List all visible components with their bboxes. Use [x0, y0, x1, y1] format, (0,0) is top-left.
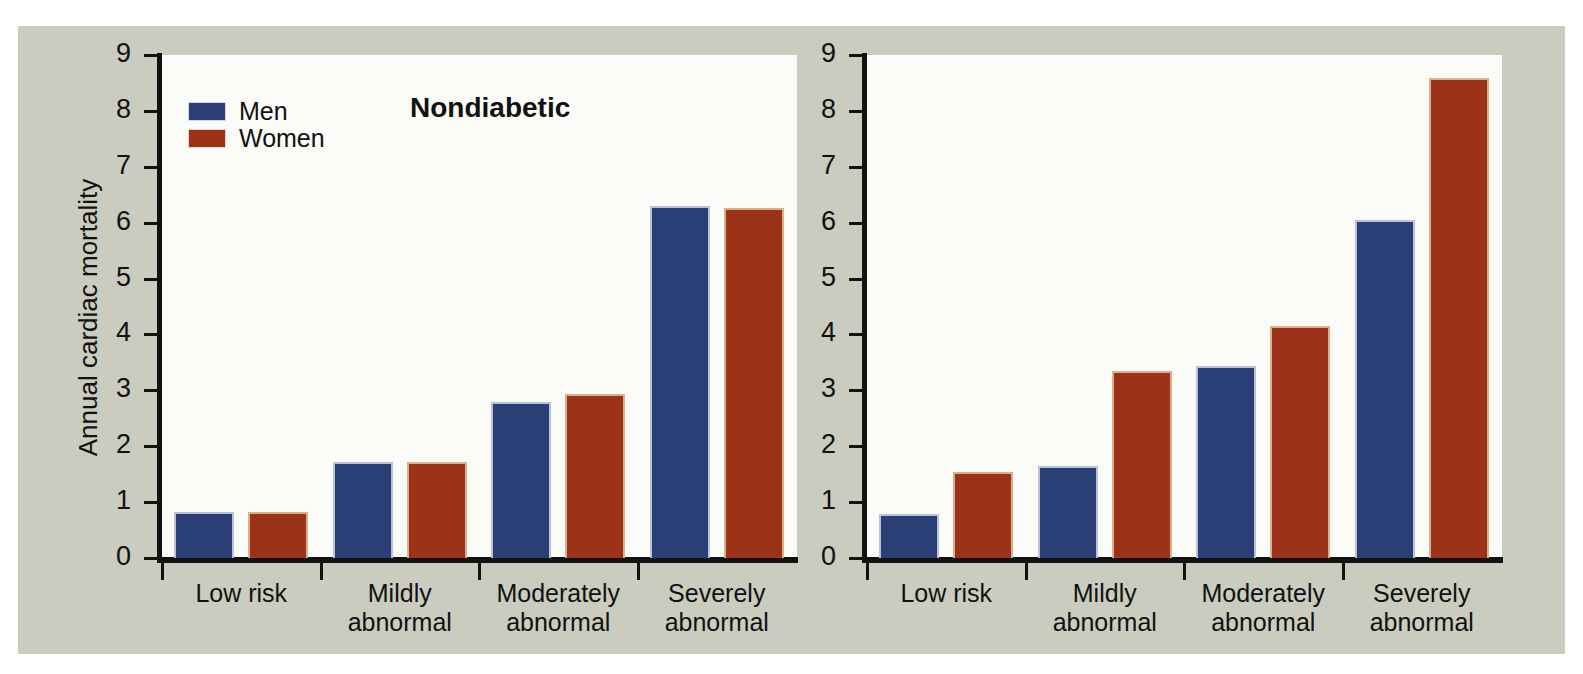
- y-tick-mark: [144, 166, 157, 169]
- y-tick-label: 7: [97, 152, 131, 179]
- y-tick-mark: [849, 54, 862, 57]
- figure-background: Annual cardiac mortality 0123456789 Low …: [18, 26, 1565, 654]
- category-label: Low risk: [162, 579, 321, 608]
- y-tick-label: 9: [802, 40, 836, 67]
- y-tick-mark: [849, 278, 862, 281]
- y-tick-label: 5: [802, 264, 836, 291]
- category-label: Mildlyabnormal: [1026, 579, 1185, 637]
- bar-men-moderately-abnormal: [1196, 366, 1256, 558]
- bar-women-mildly-abnormal: [1112, 371, 1172, 558]
- legend-label-women: Women: [239, 126, 325, 151]
- y-tick-mark: [144, 501, 157, 504]
- bar-men-severely-abnormal: [1355, 220, 1415, 558]
- bar-women-moderately-abnormal: [565, 394, 625, 558]
- category-label: Moderatelyabnormal: [1184, 579, 1343, 637]
- bar-women-moderately-abnormal: [1270, 326, 1330, 558]
- y-tick-label: 7: [802, 152, 836, 179]
- category-label: Mildlyabnormal: [321, 579, 480, 637]
- bar-women-mildly-abnormal: [407, 462, 467, 558]
- y-tick-mark: [849, 166, 862, 169]
- y-tick-mark: [144, 222, 157, 225]
- y-tick-label: 6: [97, 208, 131, 235]
- y-tick-label: 0: [97, 543, 131, 570]
- legend-item-men[interactable]: Men: [188, 98, 325, 125]
- category-label-line2: abnormal: [321, 608, 480, 637]
- bar-women-low-risk: [248, 512, 308, 558]
- category-label: Severelyabnormal: [638, 579, 797, 637]
- category-label-line1: Low risk: [162, 579, 321, 608]
- x-tick-mark: [1183, 563, 1186, 580]
- y-tick-label: 6: [802, 208, 836, 235]
- category-label-line2: abnormal: [479, 608, 638, 637]
- category-label: Severelyabnormal: [1343, 579, 1502, 637]
- legend-item-women[interactable]: Women: [188, 125, 325, 152]
- bar-women-severely-abnormal: [724, 208, 784, 558]
- y-tick-label: 9: [97, 40, 131, 67]
- y-tick-mark: [849, 445, 862, 448]
- category-label: Low risk: [867, 579, 1026, 608]
- bar-men-mildly-abnormal: [1038, 466, 1098, 558]
- legend-swatch-women-icon: [188, 129, 226, 148]
- bar-women-low-risk: [953, 472, 1013, 558]
- bar-women-severely-abnormal: [1429, 78, 1489, 558]
- x-tick-mark: [866, 563, 869, 580]
- panel-title-nondiabetic: Nondiabetic: [410, 92, 570, 124]
- y-tick-label: 1: [802, 487, 836, 514]
- x-tick-mark: [1342, 563, 1345, 580]
- panel-nondiabetic: Annual cardiac mortality 0123456789 Low …: [18, 26, 808, 654]
- legend-swatch-men-icon: [188, 102, 226, 121]
- y-tick-mark: [849, 501, 862, 504]
- figure-canvas: Annual cardiac mortality 0123456789 Low …: [0, 0, 1583, 674]
- category-label-line1: Mildly: [1026, 579, 1185, 608]
- category-label-line2: abnormal: [1184, 608, 1343, 637]
- x-tick-mark: [637, 563, 640, 580]
- y-tick-label: 2: [802, 431, 836, 458]
- x-tick-mark: [320, 563, 323, 580]
- y-tick-mark: [849, 333, 862, 336]
- bar-men-mildly-abnormal: [333, 462, 393, 558]
- panel-diabetic: 0123456789 Low riskMildlyabnormalModerat…: [808, 26, 1565, 654]
- bar-men-severely-abnormal: [650, 206, 710, 558]
- category-label-line2: abnormal: [1026, 608, 1185, 637]
- y-tick-mark: [144, 110, 157, 113]
- y-tick-mark: [144, 445, 157, 448]
- category-label-line1: Moderately: [479, 579, 638, 608]
- y-tick-label: 3: [802, 375, 836, 402]
- y-tick-mark: [849, 557, 862, 560]
- y-tick-label: 5: [97, 264, 131, 291]
- category-label: Moderatelyabnormal: [479, 579, 638, 637]
- y-tick-mark: [849, 389, 862, 392]
- y-tick-label: 2: [97, 431, 131, 458]
- y-tick-label: 0: [802, 543, 836, 570]
- category-label-line1: Severely: [638, 579, 797, 608]
- bar-men-low-risk: [879, 514, 939, 558]
- y-tick-mark: [144, 333, 157, 336]
- y-tick-label: 4: [97, 319, 131, 346]
- x-tick-mark: [161, 563, 164, 580]
- category-label-line1: Low risk: [867, 579, 1026, 608]
- bar-men-low-risk: [174, 512, 234, 558]
- y-tick-label: 3: [97, 375, 131, 402]
- y-tick-label: 8: [802, 96, 836, 123]
- legend-label-men: Men: [239, 99, 288, 124]
- y-tick-mark: [144, 278, 157, 281]
- y-tick-mark: [144, 54, 157, 57]
- y-tick-mark: [144, 557, 157, 560]
- y-tick-mark: [144, 389, 157, 392]
- category-label-line1: Severely: [1343, 579, 1502, 608]
- y-tick-mark: [849, 110, 862, 113]
- x-tick-mark: [478, 563, 481, 580]
- y-tick-label: 4: [802, 319, 836, 346]
- y-tick-label: 8: [97, 96, 131, 123]
- category-label-line1: Mildly: [321, 579, 480, 608]
- y-tick-label: 1: [97, 487, 131, 514]
- bar-men-moderately-abnormal: [491, 402, 551, 558]
- category-label-line2: abnormal: [638, 608, 797, 637]
- y-tick-mark: [849, 222, 862, 225]
- x-tick-mark: [1025, 563, 1028, 580]
- legend: Men Women: [188, 98, 325, 152]
- category-label-line1: Moderately: [1184, 579, 1343, 608]
- category-label-line2: abnormal: [1343, 608, 1502, 637]
- bars-diabetic: [867, 55, 1501, 558]
